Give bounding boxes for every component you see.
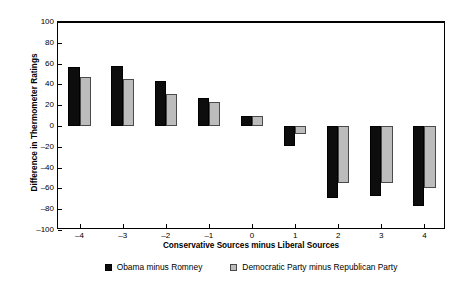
x-tick-mark [338, 224, 339, 228]
y-tick-mark [58, 168, 62, 169]
bar [295, 126, 306, 134]
x-tick-mark [252, 224, 253, 228]
bar [123, 79, 134, 126]
y-tick-mark [58, 209, 62, 210]
y-tick-label: 60 [45, 60, 58, 68]
y-tick-mark [58, 188, 62, 189]
y-tick-label: –20 [41, 143, 58, 151]
y-tick-mark [58, 64, 62, 65]
x-tick-label: 2 [336, 232, 340, 240]
legend-entry: Democratic Party minus Republican Party [230, 262, 397, 272]
y-tick-label: –100 [36, 226, 58, 234]
bar [381, 126, 392, 183]
bar [198, 98, 209, 126]
x-tick-label: 3 [379, 232, 383, 240]
y-tick-label: 80 [45, 39, 58, 47]
y-tick-label: –40 [41, 164, 58, 172]
bar [327, 126, 338, 198]
bar [424, 126, 435, 188]
legend-label: Democratic Party minus Republican Party [242, 262, 397, 272]
y-tick-label: –60 [41, 184, 58, 192]
bar [252, 116, 263, 126]
x-axis-title: Conservative Sources minus Liberal Sourc… [57, 241, 445, 250]
y-tick-mark [58, 105, 62, 106]
x-tick-label: 0 [250, 232, 254, 240]
y-tick-label: –80 [41, 205, 58, 213]
y-tick-mark [58, 84, 62, 85]
y-tick-label: 100 [41, 18, 58, 26]
y-tick-label: 0 [50, 122, 58, 130]
legend-entry: Obama minus Romney [105, 262, 203, 272]
chart-legend: Obama minus RomneyDemocratic Party minus… [57, 262, 445, 272]
x-tick-mark [80, 224, 81, 228]
legend-label: Obama minus Romney [117, 262, 203, 272]
y-tick-mark [58, 147, 62, 148]
bar [284, 126, 295, 146]
bar [241, 116, 252, 126]
x-tick-label: –3 [118, 232, 127, 240]
y-tick-mark [58, 126, 62, 127]
bar [80, 77, 91, 126]
bar [68, 67, 79, 126]
x-tick-mark [295, 224, 296, 228]
y-tick-mark [58, 22, 62, 23]
bar [370, 126, 381, 196]
legend-swatch-icon [105, 264, 112, 271]
x-tick-mark [424, 224, 425, 228]
bar [338, 126, 349, 183]
zero-baseline [58, 22, 444, 23]
x-tick-label: –4 [75, 232, 84, 240]
legend-swatch-icon [230, 264, 237, 271]
y-axis-title: Difference in Thermometer Ratings [30, 13, 39, 233]
bar [155, 81, 166, 126]
y-tick-mark [58, 43, 62, 44]
y-tick-label: 20 [45, 101, 58, 109]
x-tick-label: –2 [161, 232, 170, 240]
bar [166, 94, 177, 126]
x-tick-mark [166, 224, 167, 228]
x-tick-mark [123, 224, 124, 228]
x-tick-mark [209, 224, 210, 228]
bar [111, 66, 122, 126]
plot-area: 100806040200–20–40–60–80–100 –4–3–2–1012… [57, 21, 445, 229]
bar [413, 126, 424, 206]
chart-figure: Difference in Thermometer Ratings 100806… [0, 0, 458, 286]
x-tick-label: 1 [293, 232, 297, 240]
x-tick-label: 4 [422, 232, 426, 240]
x-tick-label: –1 [204, 232, 213, 240]
y-tick-mark [58, 230, 62, 231]
x-tick-mark [381, 224, 382, 228]
y-tick-label: 40 [45, 80, 58, 88]
bar [209, 102, 220, 126]
